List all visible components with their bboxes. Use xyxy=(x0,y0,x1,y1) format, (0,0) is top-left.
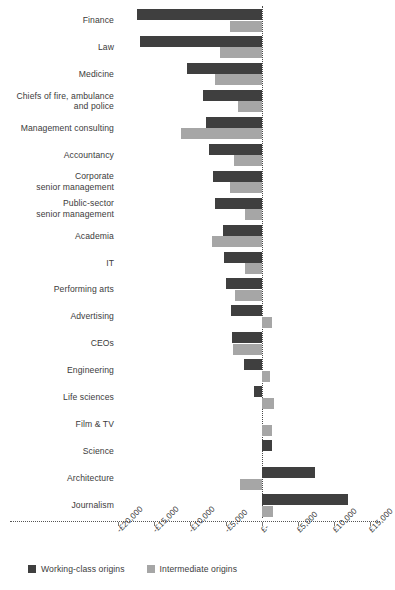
x-axis-tick-label: £- xyxy=(259,523,271,535)
category-label: IT xyxy=(0,258,114,269)
category-label: Architecture xyxy=(0,473,114,484)
bar-intermediate xyxy=(235,290,262,301)
bar-working-class xyxy=(137,9,262,20)
category-label: Medicine xyxy=(0,69,114,80)
category-label-line: Medicine xyxy=(0,69,114,80)
category-label: Management consulting xyxy=(0,123,114,134)
bar-row xyxy=(118,252,370,275)
legend-label: Working-class origins xyxy=(41,564,125,574)
bar-intermediate xyxy=(238,101,262,112)
legend-item: Working-class origins xyxy=(28,564,125,574)
bar-intermediate xyxy=(262,506,273,517)
category-label: Life sciences xyxy=(0,392,114,403)
bar-row xyxy=(118,467,370,490)
bar-working-class xyxy=(215,198,262,209)
category-label-line: senior management xyxy=(0,209,114,220)
bar-intermediate xyxy=(245,263,262,274)
category-label: Journalism xyxy=(0,500,114,511)
category-label-line: Accountancy xyxy=(0,150,114,161)
category-label-line: Chiefs of fire, ambulance xyxy=(0,91,114,102)
bar-working-class xyxy=(224,252,262,263)
bar-intermediate xyxy=(220,47,262,58)
bar-row xyxy=(118,278,370,301)
bar-working-class xyxy=(231,305,262,316)
category-label-line: Management consulting xyxy=(0,123,114,134)
bar-row xyxy=(118,332,370,355)
bar-row xyxy=(118,440,370,463)
bar-row xyxy=(118,36,370,59)
category-label-line: Academia xyxy=(0,231,114,242)
category-label: Corporatesenior management xyxy=(0,171,114,192)
category-label-line: IT xyxy=(0,258,114,269)
bar-working-class xyxy=(262,440,272,451)
legend-item: Intermediate origins xyxy=(147,564,237,574)
category-label: Academia xyxy=(0,231,114,242)
category-label-line: Film & TV xyxy=(0,419,114,430)
category-label-line: Performing arts xyxy=(0,284,114,295)
bar-working-class xyxy=(209,144,262,155)
category-label: Finance xyxy=(0,15,114,26)
category-label-column: FinanceLawMedicineChiefs of fire, ambula… xyxy=(0,6,114,518)
category-label-line: Journalism xyxy=(0,500,114,511)
bar-rows xyxy=(118,6,370,518)
category-label: CEOs xyxy=(0,338,114,349)
category-label: Engineering xyxy=(0,365,114,376)
category-label: Science xyxy=(0,446,114,457)
category-label: Law xyxy=(0,42,114,53)
bar-row xyxy=(118,63,370,86)
category-label-line: Advertising xyxy=(0,311,114,322)
category-label: Public-sectorsenior management xyxy=(0,198,114,219)
legend-swatch-icon xyxy=(147,565,155,573)
bar-working-class xyxy=(223,225,262,236)
bar-row xyxy=(118,9,370,32)
bar-working-class xyxy=(187,63,262,74)
bar-intermediate xyxy=(215,74,262,85)
bar-intermediate xyxy=(212,236,262,247)
bar-working-class xyxy=(262,467,315,478)
category-label-line: Public-sector xyxy=(0,198,114,209)
category-label-line: Law xyxy=(0,42,114,53)
category-label: Film & TV xyxy=(0,419,114,430)
category-label-line: senior management xyxy=(0,182,114,193)
bar-intermediate xyxy=(230,182,262,193)
category-label: Chiefs of fire, ambulanceand police xyxy=(0,91,114,112)
bar-working-class xyxy=(254,386,262,397)
bar-intermediate xyxy=(262,425,272,436)
category-label-line: Corporate xyxy=(0,171,114,182)
bar-intermediate xyxy=(230,21,262,32)
bar-row xyxy=(118,225,370,248)
bar-working-class xyxy=(226,278,262,289)
bar-intermediate xyxy=(262,317,272,328)
category-label: Advertising xyxy=(0,311,114,322)
bar-row xyxy=(118,144,370,167)
bar-working-class xyxy=(244,359,262,370)
category-label: Performing arts xyxy=(0,284,114,295)
category-label: Accountancy xyxy=(0,150,114,161)
bar-row xyxy=(118,305,370,328)
bar-working-class xyxy=(140,36,262,47)
bar-row xyxy=(118,90,370,113)
bar-row xyxy=(118,359,370,382)
bar-working-class xyxy=(203,90,262,101)
bar-row xyxy=(118,386,370,409)
legend-label: Intermediate origins xyxy=(160,564,237,574)
bar-row xyxy=(118,198,370,221)
bar-intermediate xyxy=(234,155,262,166)
category-label-line: CEOs xyxy=(0,338,114,349)
category-label-line: Architecture xyxy=(0,473,114,484)
bar-working-class xyxy=(213,171,262,182)
category-label-line: Life sciences xyxy=(0,392,114,403)
bar-row xyxy=(118,413,370,436)
bar-intermediate xyxy=(262,398,274,409)
bar-working-class xyxy=(262,494,348,505)
bar-intermediate xyxy=(240,479,262,490)
bar-intermediate xyxy=(181,128,262,139)
bar-intermediate xyxy=(262,371,270,382)
chart-legend: Working-class originsIntermediate origin… xyxy=(28,564,237,574)
bar-working-class xyxy=(206,117,262,128)
category-label-line: Science xyxy=(0,446,114,457)
bar-row xyxy=(118,117,370,140)
category-label-line: and police xyxy=(0,101,114,112)
bar-row xyxy=(118,171,370,194)
